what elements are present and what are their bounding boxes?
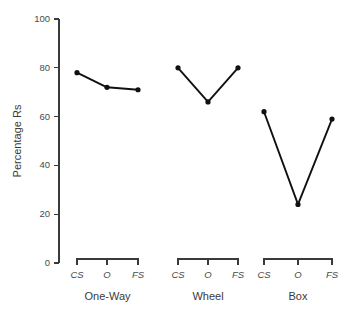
data-point	[235, 65, 240, 70]
data-point	[205, 99, 210, 104]
x-category-label: O	[204, 269, 212, 280]
data-point	[261, 109, 266, 114]
x-group-label: Wheel	[192, 290, 223, 302]
data-series-layer	[74, 65, 334, 207]
y-tick-label: 40	[39, 159, 50, 170]
data-point	[329, 116, 334, 121]
y-axis-title: Percentage Rs	[11, 104, 23, 177]
y-axis-title-text: Percentage Rs	[11, 104, 23, 177]
x-category-label: CS	[70, 269, 84, 280]
y-tick-label: 100	[34, 13, 50, 24]
y-tick-label: 0	[45, 257, 50, 268]
y-tick-label: 20	[39, 208, 50, 219]
x-axis-groups: CSOFSOne-WayCSOFSWheelCSOFSBox	[70, 259, 338, 302]
line-chart-svg: 020406080100 Percentage Rs CSOFSOne-WayC…	[0, 0, 351, 316]
x-category-label: FS	[326, 269, 339, 280]
x-category-label: CS	[257, 269, 271, 280]
data-point	[295, 202, 300, 207]
x-category-label: CS	[171, 269, 185, 280]
x-category-label: O	[294, 269, 302, 280]
chart-container: 020406080100 Percentage Rs CSOFSOne-WayC…	[0, 0, 351, 316]
x-group-label: One-Way	[84, 290, 131, 302]
series-line-box	[264, 112, 332, 205]
data-point	[74, 70, 79, 75]
x-category-label: FS	[232, 269, 245, 280]
series-line-wheel	[178, 68, 238, 102]
data-point	[104, 85, 109, 90]
x-category-label: O	[103, 269, 111, 280]
data-point	[135, 87, 140, 92]
x-category-label: FS	[132, 269, 145, 280]
y-tick-label: 60	[39, 111, 50, 122]
y-tick-label: 80	[39, 62, 50, 73]
y-axis-ticks: 020406080100	[34, 13, 59, 268]
x-group-label: Box	[289, 290, 308, 302]
data-point	[175, 65, 180, 70]
